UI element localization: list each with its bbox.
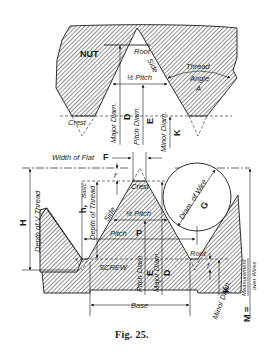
M-letter: M =	[242, 307, 252, 322]
f-label: f	[114, 171, 117, 180]
measurement-label: Measurement	[241, 259, 247, 296]
nut-half-pitch-label: ½ Pitch	[127, 73, 152, 82]
width-of-flat-label: Width of Flat	[52, 153, 95, 162]
nut-minor-diam-letter: K	[172, 129, 182, 136]
nut-pitch-diam-label: Pitch Diam.	[132, 107, 141, 145]
basic-label: Basic	[81, 183, 87, 198]
nut-body	[56, 25, 237, 116]
nut-crest-v-right	[189, 116, 207, 136]
screw-pitch-diam-label: Pitch Diam.	[135, 254, 144, 292]
nut-minor-diam-label: Minor Diam.	[159, 112, 168, 152]
screw-label: SCREW	[99, 263, 128, 272]
screw-crest-v	[133, 168, 146, 181]
nut-section: NUT Root Side ½ Pitch Thread Angle A Cre…	[56, 25, 237, 152]
nut-root-label: Root	[134, 47, 151, 56]
pitch-label: Pitch	[110, 229, 127, 238]
over-wires-label: over Wires	[251, 261, 257, 290]
base-label: Base	[131, 301, 148, 310]
screw-major-diam-letter: D	[162, 269, 172, 276]
nut-pitch-diam-letter: E	[145, 118, 155, 124]
thread-angle-letter: A	[195, 84, 201, 93]
depth-of-v-thread-label: Depth of V Thread	[33, 190, 42, 252]
nut-major-diam-label: Major Diam.	[109, 103, 118, 143]
width-of-flat-letter: F	[103, 152, 109, 162]
nut-major-diam-letter: D	[122, 113, 132, 120]
screw-section: Width of Flat F f Crest H Depth of V Thr…	[18, 152, 257, 322]
depth-of-thread-label: Depth of Thread	[88, 185, 97, 240]
screw-half-pitch-label: ½ Pitch	[126, 209, 151, 218]
screw-left-tooth	[40, 208, 82, 272]
screw-minor-diam-letter: K	[221, 286, 231, 293]
nut-crest-label: Crest	[68, 118, 87, 127]
h-letter: h,	[78, 205, 88, 213]
H-letter: H	[18, 220, 28, 227]
nut-label: NUT	[80, 49, 99, 59]
thread-angle-label-2: Angle	[189, 74, 209, 83]
screw-crest-label: Crest	[131, 182, 150, 191]
screw-root-label: Root	[190, 249, 207, 258]
screw-major-diam-label: Major Diam.	[152, 252, 161, 292]
thread-angle-label-1: Thread	[186, 62, 211, 71]
thread-diagram-figure: NUT Root Side ½ Pitch Thread Angle A Cre…	[0, 0, 273, 357]
pitch-letter: P	[136, 228, 142, 238]
figure-caption: Fig. 25.	[115, 329, 149, 340]
